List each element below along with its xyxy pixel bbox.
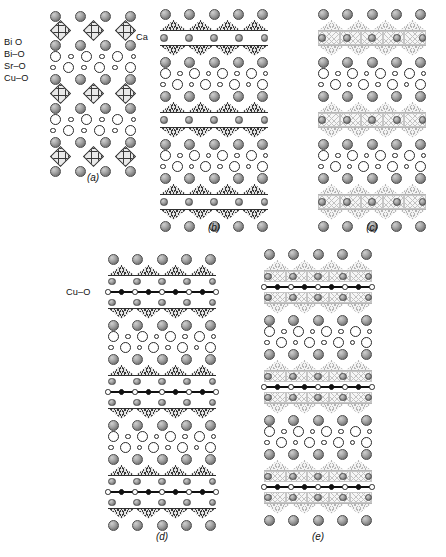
pyramid-face [399,45,426,56]
cu-o-pyramid [135,308,162,319]
cu-o-pyramid-up-layer [318,20,426,31]
cu-o-pyramid-down-layer [108,408,216,419]
bi-o-atom [148,442,159,453]
cation-sphere [75,137,86,148]
cation-sphere [157,520,168,531]
cation-sphere [257,57,268,68]
ca-sphere [393,34,401,42]
bi-o-atom [264,326,275,337]
cation-sphere [361,449,372,460]
bi-o-atom [50,51,61,62]
panel-d-stack [108,253,216,531]
bi-o-atom [293,326,304,337]
pyramid-face [345,209,372,220]
ca-sphere [210,198,218,206]
ca-sphere [339,394,347,402]
cation-sphere [342,173,353,184]
cation-sphere [264,315,275,326]
cu-o-pyramid-down-layer [160,45,268,56]
ca-sphere [339,494,347,502]
cation-sphere [132,254,143,265]
cation-sphere [108,320,119,331]
cation-sphere [184,57,195,68]
pyramid-face [160,209,187,220]
cu-o-pyramid [399,127,426,138]
cu-o-pyramid [135,408,162,419]
ca-sphere [318,34,326,42]
cu-o-pyramid [345,403,372,414]
ca-sphere [264,294,272,302]
bi-o-atom [217,164,223,170]
bi-o-atom [263,153,269,159]
bi-o-atom [421,71,427,77]
chain-oxygen [288,484,294,490]
cation-sphere [367,173,378,184]
bi-o-atom [375,164,381,170]
cu-o-pyramid [345,45,372,56]
cu-o-octahedra-layer [50,85,136,102]
ca-sphere [235,34,243,42]
panel-b-stack [160,8,268,232]
cu-o-chain-layer [108,287,216,297]
cu-o-pyramid-down-layer [264,303,372,314]
pyramid-baseline [108,308,216,309]
cation-sphere [205,254,216,265]
ca-sphere [339,473,347,481]
ca-sphere [185,34,193,42]
cu-o-pyramid [345,503,372,514]
cation-sphere [160,173,171,184]
cu-o-pyramid-up-layer [264,260,372,271]
ca-sphere [160,34,168,42]
cation-sphere [75,74,86,85]
chain-oxygen [186,389,192,395]
cu-o-pyramid-down-layer [264,503,372,514]
cu-o-pyramid [241,127,268,138]
cation-sphere [367,91,378,102]
pyramid-baseline [264,503,372,504]
cu-o-pyramid-up-layer [160,184,268,195]
cation-sphere [415,57,426,68]
cation-sphere [361,315,372,326]
cation-sphere [313,415,324,426]
cation-sphere [318,173,329,184]
bi-o-atom [246,164,252,170]
bi-o-atom [206,153,212,159]
cation-sphere [157,454,168,465]
cu-o-octahedron [50,83,71,104]
ca-sphere [235,116,243,124]
chain-copper [200,489,206,495]
cu-o-pyramid [291,503,318,514]
cu-o-pyramid-up-layer [108,265,216,276]
cu-o-octahedron [50,20,71,41]
cation-sphere [125,40,136,51]
bi-o-atom [189,164,195,170]
panel-e-caption: (e) [264,531,372,542]
pyramid-face [108,408,135,419]
ca-sphere [289,473,297,481]
bi-o-atom [387,79,398,90]
ca-sphere [264,273,272,281]
bi-o-atom [350,340,356,346]
cation-sphere [205,420,216,431]
cu-o-pyramid [318,45,345,56]
ca-sphere [158,378,166,386]
bi-o-atom [361,437,372,448]
bi-o-layer [50,114,136,125]
bi-o-layer [160,161,268,172]
pyramid-face [264,503,291,514]
cation-sphere [391,139,402,150]
bi-o-atom [50,128,56,134]
ca-sphere [289,273,297,281]
sr-o-layer [160,56,268,68]
cu-o-pyramid-down-layer [318,209,426,220]
pyramid-face [189,308,216,319]
cation-sphere [157,420,168,431]
cation-sphere [132,520,143,531]
chain-oxygen [213,289,219,295]
ca-layer [108,276,216,287]
sr-o-layer [108,253,216,265]
ca-layer [108,297,216,308]
cation-sphere [160,139,171,150]
bi-o-atom [338,329,344,335]
cation-sphere [415,173,426,184]
